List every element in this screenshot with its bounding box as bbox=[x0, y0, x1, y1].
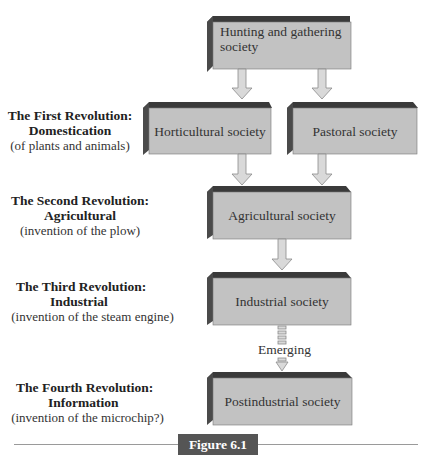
node-hunting-line1: Hunting and gathering bbox=[220, 24, 341, 39]
caption-rule-left bbox=[14, 444, 178, 445]
revolution-label-third: The Third Revolution: Industrial (invent… bbox=[0, 279, 185, 324]
arrow-hunting-to-pastoral bbox=[312, 69, 332, 99]
node-postindustrial: Postindustrial society bbox=[213, 378, 352, 425]
revolution-title: The Fourth Revolution: bbox=[0, 380, 175, 395]
arrow-pastoral-to-agricultural bbox=[312, 154, 332, 185]
arrow-agricultural-to-industrial bbox=[272, 239, 292, 270]
revolution-title: The First Revolution: bbox=[0, 108, 140, 123]
node-horticultural: Horticultural society bbox=[149, 108, 271, 154]
revolution-subtitle: (invention of the microchip?) bbox=[0, 410, 175, 425]
edge-label-emerging: Emerging bbox=[258, 342, 311, 358]
node-hunting-line2: society bbox=[220, 39, 258, 54]
figure-caption: Figure 6.1 bbox=[178, 434, 258, 455]
node-industrial: Industrial society bbox=[213, 278, 351, 325]
revolution-name: Agricultural bbox=[0, 208, 160, 223]
revolution-name: Domestication bbox=[0, 123, 140, 138]
diagram-stage: Hunting and gathering society Horticultu… bbox=[0, 0, 426, 471]
revolution-title: The Second Revolution: bbox=[0, 193, 160, 208]
node-pastoral: Pastoral society bbox=[293, 108, 417, 154]
arrow-horticultural-to-agricultural bbox=[232, 154, 252, 185]
revolution-label-fourth: The Fourth Revolution: Information (inve… bbox=[0, 380, 175, 425]
revolution-subtitle: (invention of the steam engine) bbox=[0, 309, 185, 324]
arrow-hunting-to-horticultural bbox=[232, 69, 252, 99]
revolution-name: Industrial bbox=[0, 294, 185, 309]
node-hunting: Hunting and gathering society bbox=[216, 24, 350, 66]
revolution-subtitle: (invention of the plow) bbox=[0, 223, 160, 238]
node-agricultural: Agricultural society bbox=[213, 192, 351, 239]
revolution-label-second: The Second Revolution: Agricultural (inv… bbox=[0, 193, 160, 238]
revolution-name: Information bbox=[0, 395, 175, 410]
revolution-label-first: The First Revolution: Domestication (of … bbox=[0, 108, 140, 153]
revolution-title: The Third Revolution: bbox=[0, 279, 185, 294]
revolution-subtitle: (of plants and animals) bbox=[0, 138, 140, 153]
caption-rule-right bbox=[258, 444, 418, 445]
